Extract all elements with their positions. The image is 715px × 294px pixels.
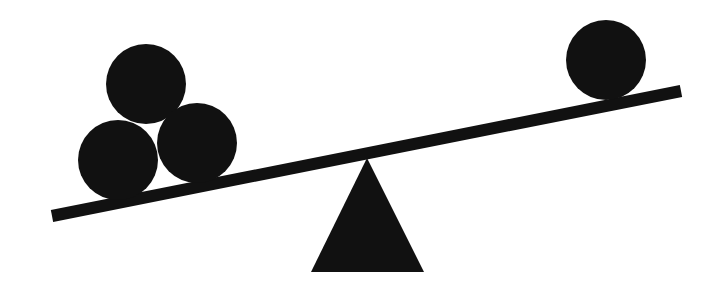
seesaw-diagram [0, 0, 715, 294]
ball-left-bottom-right [157, 103, 237, 183]
ball-left-bottom-left [78, 120, 158, 200]
ball-right [566, 20, 646, 100]
diagram-canvas [0, 0, 715, 294]
